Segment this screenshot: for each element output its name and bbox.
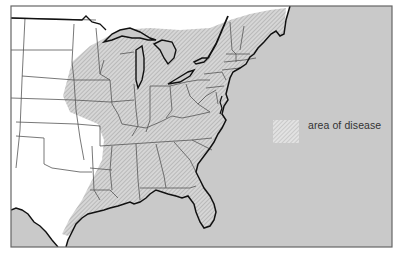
legend-swatch (273, 120, 299, 143)
legend-label: area of disease (308, 119, 381, 131)
